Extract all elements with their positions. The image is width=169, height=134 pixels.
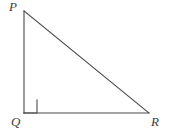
geometry-figure: P Q R — [0, 0, 169, 134]
vertex-label-q: Q — [11, 115, 20, 128]
vertex-label-p: P — [9, 0, 17, 13]
vertex-label-r: R — [151, 115, 159, 128]
right-angle-marker-icon — [24, 100, 37, 113]
triangle-diagram — [0, 0, 169, 134]
triangle-side-pr-hypotenuse — [24, 11, 149, 113]
